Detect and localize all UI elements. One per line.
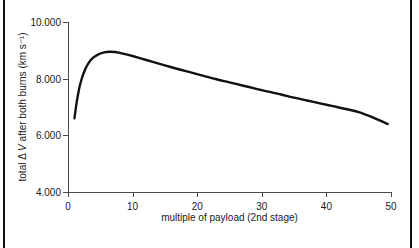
x-tick-label: 10 <box>127 201 138 212</box>
y-tick-label: 6.000 <box>36 130 61 141</box>
plot-area: 4.0006.0008.00010.000 01020304050 <box>68 22 391 192</box>
x-tick-mark <box>68 192 69 197</box>
y-axis-title-suffix: after both burns (km s⁻¹) <box>17 33 28 145</box>
y-tick-label: 4.000 <box>36 187 61 198</box>
x-tick-label: 20 <box>192 201 203 212</box>
y-axis-title: total Δ V after both burns (km s⁻¹) <box>17 22 31 192</box>
left-frame-rule <box>3 0 5 248</box>
y-tick-label: 10.000 <box>30 17 61 28</box>
x-tick-mark <box>326 192 327 197</box>
x-axis-title: multiple of payload (2nd stage) <box>68 212 391 223</box>
y-axis-title-italic: V <box>17 144 28 151</box>
right-frame-rule <box>410 0 412 248</box>
x-tick-label: 30 <box>256 201 267 212</box>
series-line-total-delta-v <box>74 52 387 124</box>
x-tick-label: 50 <box>385 201 396 212</box>
x-axis-spine <box>68 192 391 193</box>
figure-panel: 4.0006.0008.00010.000 01020304050 total … <box>0 0 419 248</box>
x-tick-mark <box>133 192 134 197</box>
x-tick-mark <box>391 192 392 197</box>
x-tick-mark <box>262 192 263 197</box>
x-tick-label: 40 <box>321 201 332 212</box>
x-tick-label: 0 <box>65 201 71 212</box>
x-tick-mark <box>197 192 198 197</box>
y-tick-label: 8.000 <box>36 73 61 84</box>
y-axis-title-prefix: total Δ <box>17 151 28 182</box>
data-curve-layer <box>68 22 391 192</box>
